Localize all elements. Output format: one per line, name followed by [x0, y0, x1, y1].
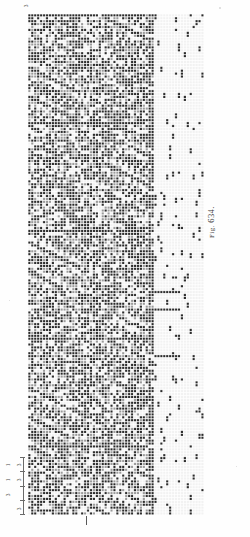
ruler-label-4: 3	[17, 478, 23, 481]
ruler-label-0: 3	[24, 4, 30, 7]
scan-speck	[9, 300, 10, 301]
figure-plate: 3 1 3 1 3 3 3 Fig. 634.	[0, 0, 250, 537]
ruler-label-6: 3	[17, 507, 23, 510]
ruler-serif	[20, 486, 25, 487]
weave-pattern-grid	[28, 14, 204, 515]
ruler-label-5: 3	[6, 493, 12, 496]
ruler-label-1: 1	[6, 463, 12, 466]
figure-caption-prefix: Fig.	[208, 225, 215, 238]
figure-caption-number: 634.	[206, 206, 216, 222]
ruler-label-3: 1	[6, 478, 12, 481]
ruler-serif	[20, 500, 25, 501]
repeat-centre-tick	[86, 516, 87, 525]
scan-speck	[236, 466, 237, 467]
scan-speck	[219, 7, 221, 9]
ruler-serif	[20, 514, 25, 515]
figure-caption: Fig. 634.	[206, 178, 216, 238]
ruler-label-2: 3	[17, 463, 23, 466]
ruler-serif	[20, 457, 25, 458]
ruler-serif	[20, 471, 25, 472]
weave-pattern-canvas	[28, 14, 204, 515]
